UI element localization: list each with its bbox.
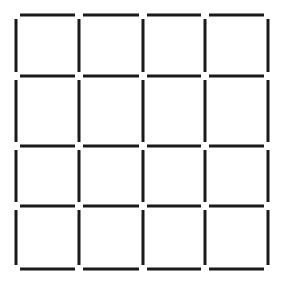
matchstick-grid	[0, 0, 285, 281]
